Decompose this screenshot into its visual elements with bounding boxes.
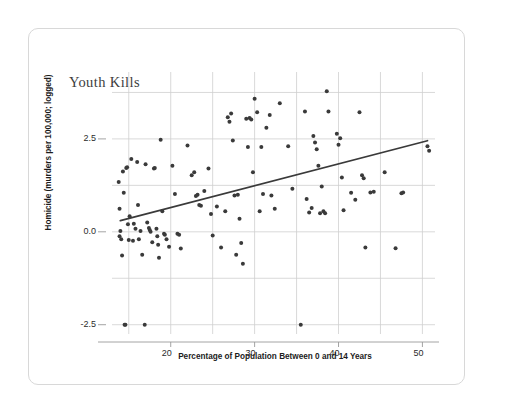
axis-lines: [98, 68, 439, 342]
tick-marks: [98, 139, 422, 347]
y-axis-label: Homicide (murders per 100,000; logged): [44, 53, 53, 253]
x-axis-label: Percentage of Population Between 0 and 1…: [110, 352, 440, 361]
y-tick-label: -2.5: [72, 319, 96, 329]
y-tick-label: 0.0: [72, 226, 96, 236]
screenshot-root: Youth Kills 203040502.50.0-2.5 Homicide …: [0, 0, 518, 416]
data-points: [117, 89, 431, 326]
gridlines: [112, 72, 435, 334]
y-tick-label: 2.5: [72, 133, 96, 143]
